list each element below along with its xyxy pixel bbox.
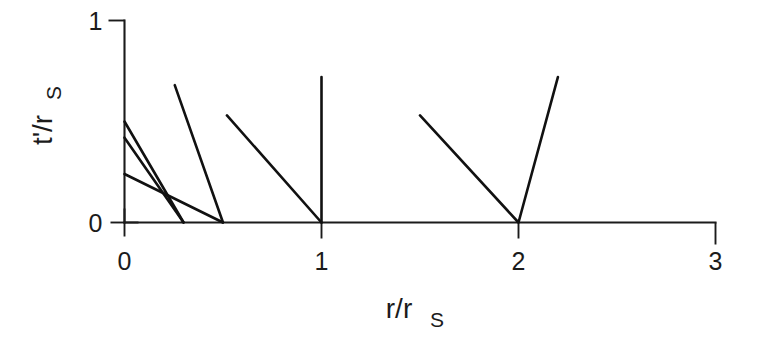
x-axis-title-main: r/r (386, 293, 412, 324)
trajectory-line-infall-from-0.42 (125, 138, 184, 223)
trajectory-line-infall-from-0.50 (125, 122, 184, 223)
trajectory-line-v-shape-at-2 (420, 77, 558, 222)
y-axis-title-main: t'/r (27, 115, 58, 145)
x-tick-label: 3 (709, 247, 723, 275)
x-axis-title: r/r S (386, 293, 444, 331)
x-tick-label: 0 (118, 247, 132, 275)
y-tick-label: 0 (89, 209, 103, 237)
x-tick-label: 2 (512, 247, 526, 275)
x-tick-labels: 0123 (118, 247, 723, 275)
data-series-group (125, 77, 558, 222)
x-tick-label: 1 (315, 247, 329, 275)
chart-svg: 0123 01 r/r S t'/r S (0, 0, 765, 350)
y-axis-title: t'/r S (27, 86, 65, 145)
y-tick-labels: 01 (89, 7, 103, 237)
x-axis-title-subscript: S (430, 308, 444, 331)
y-tick-label: 1 (89, 7, 103, 35)
y-axis-title-subscript: S (42, 86, 65, 100)
figure-container: 0123 01 r/r S t'/r S (0, 0, 765, 350)
trajectory-line-infall-from-0.53 (227, 115, 322, 222)
